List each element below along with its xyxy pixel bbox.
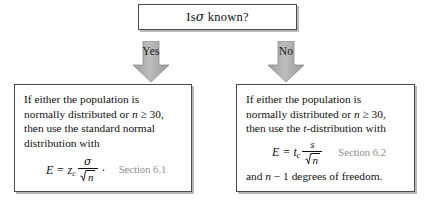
- known-section-reference: Section 6.1: [119, 164, 167, 175]
- square-root-icon: n: [305, 153, 321, 166]
- unknown-formula-fraction: s n: [302, 139, 322, 166]
- outcome-box-sigma-known: If either the population is normally dis…: [14, 84, 192, 192]
- decision-question-box: Isσ known?: [138, 4, 297, 30]
- known-formula-trailing-dot: ·: [102, 164, 105, 176]
- unknown-formula-numerator: s: [307, 139, 317, 151]
- known-line-1: If either the population is: [24, 92, 183, 107]
- known-line-4: distribution with: [24, 136, 183, 151]
- known-formula-radicand: n: [86, 170, 96, 183]
- unknown-formula-radicand: n: [311, 153, 321, 166]
- unknown-tail-a: and: [246, 170, 265, 182]
- known-formula-equals: =: [56, 164, 64, 176]
- unknown-formula-equals: =: [282, 146, 290, 158]
- branch-arrow-no: No: [267, 41, 305, 83]
- known-line-2-b: ≥ 30,: [138, 108, 164, 120]
- unknown-line-1: If either the population is: [246, 92, 406, 107]
- outcome-box-sigma-unknown: If either the population is normally dis…: [236, 84, 415, 192]
- unknown-line-2-a: normally distributed or: [246, 108, 354, 120]
- square-root-icon: n: [80, 170, 96, 183]
- known-line-2: normally distributed or n ≥ 30,: [24, 107, 183, 122]
- unknown-line-2-b: ≥ 30,: [360, 108, 386, 120]
- known-formula-coefficient: zc: [67, 164, 75, 176]
- branch-arrow-yes: Yes: [132, 41, 170, 83]
- unknown-line-3: then use the t-distribution with: [246, 121, 406, 136]
- known-line-3: then use the standard normal: [24, 121, 183, 136]
- unknown-tail-line: and n − 1 degrees of freedom.: [246, 169, 406, 184]
- known-formula-row: E = zc σ n · Se: [24, 156, 183, 183]
- unknown-formula-row: E = tc s n Section 6.2: [246, 139, 406, 166]
- known-formula-lhs: E: [46, 164, 53, 176]
- decision-question-text: Isσ known?: [186, 11, 248, 24]
- unknown-formula-denominator: n: [303, 152, 323, 166]
- unknown-line-3-a: then use the: [246, 122, 303, 134]
- known-formula: E = zc σ n ·: [46, 156, 105, 183]
- unknown-line-2: normally distributed or n ≥ 30,: [246, 107, 406, 122]
- down-arrow-icon: [267, 41, 305, 83]
- unknown-section-reference: Section 6.2: [338, 147, 386, 158]
- unknown-formula-coefficient-sub: c: [297, 152, 301, 160]
- flowchart-figure: Isσ known? Yes: [0, 0, 433, 203]
- unknown-tail-b: − 1 degrees of freedom.: [271, 170, 382, 182]
- question-prefix: Is: [186, 10, 195, 24]
- known-formula-coefficient-sub: c: [72, 170, 76, 178]
- known-formula-fraction: σ n: [78, 156, 98, 183]
- unknown-formula-lhs: E: [272, 146, 279, 158]
- unknown-line-3-b: -distribution with: [306, 122, 385, 134]
- down-arrow-icon: [132, 41, 170, 83]
- known-formula-numerator: σ: [81, 156, 95, 168]
- unknown-formula: E = tc s n: [272, 139, 322, 166]
- known-formula-denominator: n: [78, 169, 98, 183]
- unknown-formula-coefficient: tc: [293, 146, 300, 158]
- sigma-symbol: σ: [196, 9, 205, 24]
- known-line-2-a: normally distributed or: [24, 108, 132, 120]
- question-suffix: known?: [208, 10, 249, 24]
